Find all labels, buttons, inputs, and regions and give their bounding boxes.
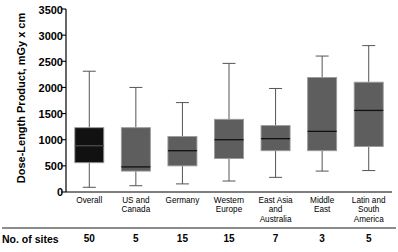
box-plot-4 [261,88,290,177]
site-count-0: 50 [64,233,114,244]
x-axis-label-6: Latin and South America [339,196,398,224]
box-iqr [354,82,383,146]
box-iqr [308,77,337,150]
site-count-6: 5 [344,233,394,244]
box-plot-2 [168,103,197,184]
box-plot-figure: Dose-Length Product, mGy x cm 3500 3000 … [0,0,398,252]
box-plot-3 [215,63,244,181]
box-group [75,46,383,188]
site-count-5: 3 [297,233,347,244]
site-count-2: 15 [157,233,207,244]
box-iqr [215,119,244,158]
box-plot-1 [121,87,150,185]
no-of-sites-label: No. of sites [2,233,59,245]
site-count-4: 7 [251,233,301,244]
box-plot-6 [354,46,383,171]
site-count-3: 15 [204,233,254,244]
box-plot-0 [75,71,104,187]
box-iqr [121,128,150,171]
box-plot-5 [308,56,337,171]
site-count-1: 5 [111,233,161,244]
y-axis-ticks [62,9,67,192]
